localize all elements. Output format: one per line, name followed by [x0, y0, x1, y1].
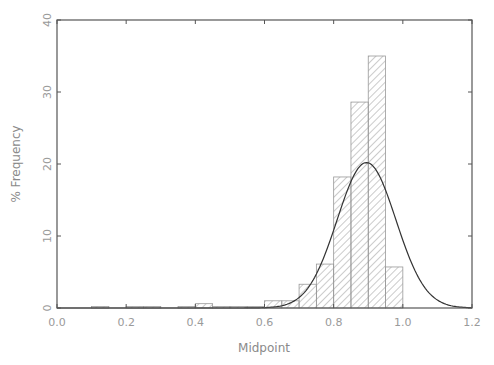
y-tick-label: 0 [41, 305, 54, 312]
y-tick-label: 30 [41, 85, 54, 99]
x-tick-label: 0.6 [256, 316, 274, 329]
x-axis: 0.00.20.40.60.81.01.2 [48, 20, 481, 329]
x-tick-label: 1.2 [463, 316, 481, 329]
histogram-bar [195, 304, 212, 308]
x-tick-label: 0.0 [48, 316, 66, 329]
x-tick-label: 0.2 [117, 316, 135, 329]
histogram-bar [282, 301, 299, 308]
x-tick-label: 1.0 [394, 316, 412, 329]
histogram-bar [316, 264, 333, 308]
y-tick-label: 20 [41, 157, 54, 171]
y-tick-label: 10 [41, 229, 54, 243]
x-axis-title: Midpoint [238, 341, 290, 355]
y-tick-label: 40 [41, 13, 54, 27]
histogram-bars [92, 56, 403, 308]
x-tick-label: 0.4 [187, 316, 205, 329]
histogram-chart: 0.00.20.40.60.81.01.2 010203040 Midpoint… [0, 0, 494, 365]
histogram-bar [334, 177, 351, 308]
histogram-bar [386, 267, 403, 308]
y-axis: 010203040 [41, 13, 472, 312]
plot-frame [57, 20, 472, 308]
histogram-bar [368, 56, 385, 308]
normal-fit-curve [57, 163, 472, 308]
histogram-bar [351, 102, 368, 308]
y-axis-title: % Frequency [9, 125, 23, 202]
x-tick-label: 0.8 [325, 316, 343, 329]
